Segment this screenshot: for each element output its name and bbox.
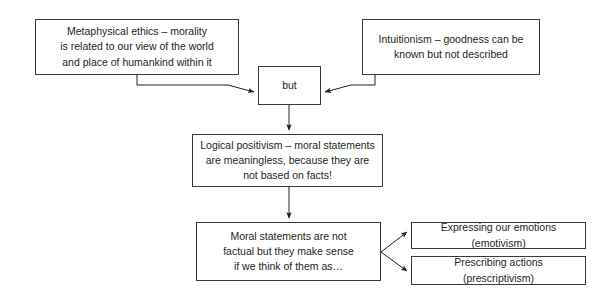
connector-intuitionism-to-but xyxy=(325,75,375,92)
node-moral-statements-label: Moral statements are not factual but the… xyxy=(223,229,354,275)
node-emotivism-label: Expressing our emotions (emotivism) xyxy=(418,220,579,250)
connector-moral-to-prescriptivism xyxy=(381,252,407,271)
node-prescriptivism: Prescribing actions (prescriptivism) xyxy=(411,256,586,285)
node-metaphysical-ethics: Metaphysical ethics – morality is relate… xyxy=(35,19,239,75)
node-but: but xyxy=(258,66,321,105)
connector-metaphysical-to-but xyxy=(137,75,254,92)
node-logical-positivism: Logical positivism – moral statements ar… xyxy=(192,134,383,187)
node-moral-statements: Moral statements are not factual but the… xyxy=(196,222,381,281)
node-but-label: but xyxy=(282,78,297,93)
node-emotivism: Expressing our emotions (emotivism) xyxy=(411,222,586,249)
node-metaphysical-ethics-label: Metaphysical ethics – morality is relate… xyxy=(60,24,214,70)
connector-moral-to-emotivism xyxy=(381,232,407,252)
node-intuitionism: Intuitionism – goodness can be known but… xyxy=(362,19,540,75)
node-intuitionism-label: Intuitionism – goodness can be known but… xyxy=(379,32,524,62)
node-prescriptivism-label: Prescribing actions (prescriptivism) xyxy=(418,255,579,285)
diagram-canvas: Metaphysical ethics – morality is relate… xyxy=(0,0,615,297)
node-logical-positivism-label: Logical positivism – moral statements ar… xyxy=(200,138,375,184)
